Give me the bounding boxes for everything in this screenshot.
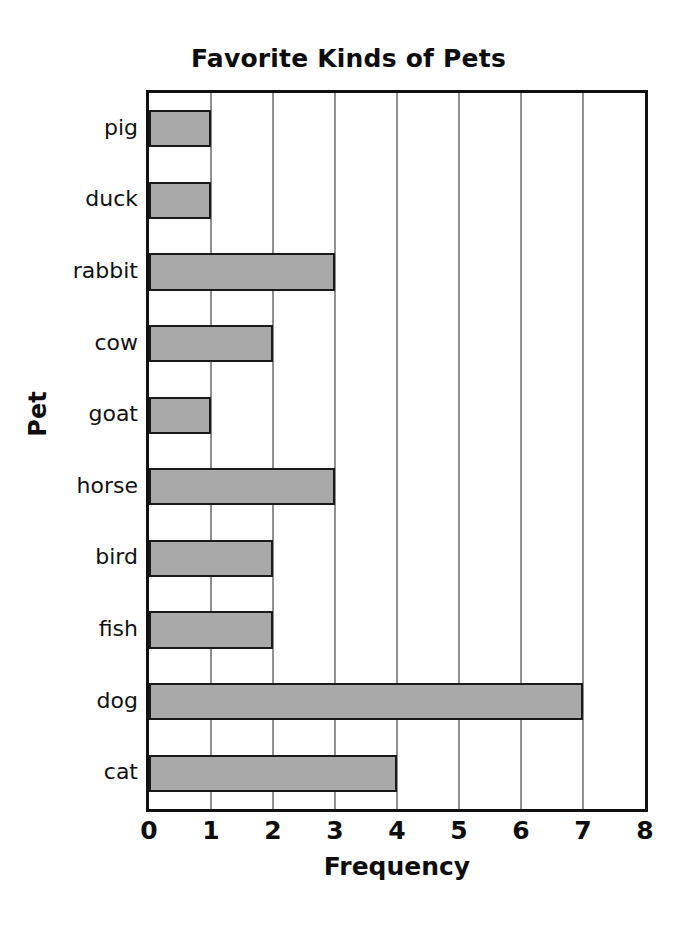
x-axis-tick-label: 6 <box>501 816 541 845</box>
x-axis-tick-label: 2 <box>253 816 293 845</box>
y-axis-tick-label: horse <box>8 473 138 498</box>
x-axis-tick-label: 5 <box>439 816 479 845</box>
y-axis-tick-label: bird <box>8 544 138 569</box>
bar <box>149 611 273 648</box>
y-axis-tick-label: fish <box>8 616 138 641</box>
y-axis-tick-label: cat <box>8 759 138 784</box>
x-axis-tick-labels: 012345678 <box>146 816 648 856</box>
bar <box>149 110 211 147</box>
x-axis-tick-label: 4 <box>377 816 417 845</box>
x-axis-tick-label: 3 <box>315 816 355 845</box>
bar <box>149 755 397 792</box>
x-axis-tick-label: 1 <box>191 816 231 845</box>
bar-chart-figure: Favorite Kinds of Pets Pet pigduckrabbit… <box>0 0 697 934</box>
bar <box>149 683 583 720</box>
y-axis-tick-label: rabbit <box>8 258 138 283</box>
y-axis-tick-label: cow <box>8 330 138 355</box>
y-axis-tick-label: dog <box>8 688 138 713</box>
x-axis-tick-label: 0 <box>129 816 169 845</box>
bar <box>149 253 335 290</box>
bar <box>149 468 335 505</box>
plot-area <box>146 90 648 812</box>
bar <box>149 540 273 577</box>
bar <box>149 182 211 219</box>
x-axis-tick-label: 7 <box>563 816 603 845</box>
chart-title: Favorite Kinds of Pets <box>0 44 697 73</box>
bar <box>149 325 273 362</box>
y-axis-tick-label: goat <box>8 401 138 426</box>
x-axis-tick-label: 8 <box>625 816 665 845</box>
y-axis-tick-label: duck <box>8 186 138 211</box>
y-axis-tick-label: pig <box>8 115 138 140</box>
y-axis-tick-labels: pigduckrabbitcowgoathorsebirdfishdogcat <box>0 90 138 812</box>
bar <box>149 397 211 434</box>
x-axis-label: Frequency <box>146 852 648 881</box>
